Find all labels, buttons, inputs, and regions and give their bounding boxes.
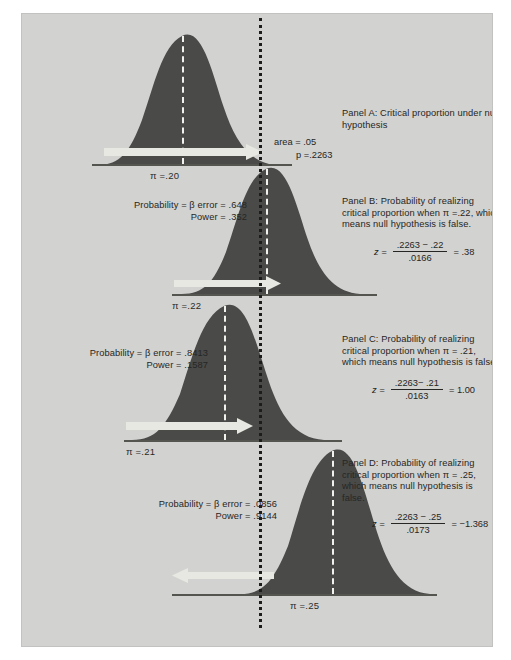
panel-c-z-numerator: .2263− .21 xyxy=(391,378,443,389)
panel-d-pi-label: π =.25 xyxy=(290,600,319,611)
panel-b-z-numerator: .2263 − .22 xyxy=(393,240,448,251)
panel-a-arrow-right xyxy=(104,144,264,164)
panel-c-z-result: = 1.00 xyxy=(446,385,475,395)
panel-d: π =.25 Probability = β error = .0856 Pow… xyxy=(22,446,492,616)
panel-a-area-annotation: area = .05 p =.2263 xyxy=(274,136,332,161)
panel-b-z-formula: z = .2263 − .22 .0166 = .38 xyxy=(374,240,474,263)
panel-c-arrow-right xyxy=(126,418,254,438)
panel-d-z-symbol: z = xyxy=(372,519,388,529)
panel-b-beta-line: Probability = β error = .648 xyxy=(57,199,247,211)
panel-b-power-line: Power = .352 xyxy=(57,211,247,223)
statistical-power-figure: π =.20 area = .05 p =.2263 Panel A: Crit… xyxy=(22,14,492,646)
panel-b-arrow-right xyxy=(174,276,282,295)
panel-a-p-label: p =.2263 xyxy=(274,149,332,162)
panel-d-z-formula: z = .2263 − .25 .0173 = −1.368 xyxy=(372,512,488,535)
panel-d-mean-line xyxy=(332,451,334,594)
panel-c-description: Panel C: Probability of realizing critic… xyxy=(342,334,492,369)
panel-b-z-symbol: z = xyxy=(374,247,390,257)
panel-c-power-line: Power = .1587 xyxy=(22,359,208,371)
panel-d-power-line: Power = .9144 xyxy=(77,510,277,522)
panel-d-beta-annotation: Probability = β error = .0856 Power = .9… xyxy=(77,498,277,522)
panel-b-z-result: = .38 xyxy=(450,247,474,257)
panel-d-description: Panel D: Probability of realizing critic… xyxy=(342,458,492,504)
panel-c-z-denominator: .0163 xyxy=(391,389,443,401)
panel-c-beta-line: Probability = β error = .8413 xyxy=(22,347,208,359)
panel-c: π =.21 Probability = β error = .8413 Pow… xyxy=(22,302,492,462)
panel-c-z-symbol: z = xyxy=(372,385,388,395)
panel-c-baseline xyxy=(124,440,342,442)
panel-c-beta-annotation: Probability = β error = .8413 Power = .1… xyxy=(22,347,208,371)
panel-b: π =.22 Probability = β error = .648 Powe… xyxy=(22,166,492,316)
panel-b-description: Panel B: Probability of realizing critic… xyxy=(342,196,492,231)
panel-d-z-numerator: .2263 − .25 xyxy=(391,512,446,523)
panel-b-beta-annotation: Probability = β error = .648 Power = .35… xyxy=(57,199,247,223)
panel-d-baseline xyxy=(172,594,437,596)
panel-d-z-denominator: .0173 xyxy=(391,523,446,535)
panel-b-z-denominator: .0166 xyxy=(393,251,448,263)
critical-value-line xyxy=(259,18,262,628)
panel-a-area-label: area = .05 xyxy=(274,137,316,147)
panel-d-beta-line: Probability = β error = .0856 xyxy=(77,498,277,510)
panel-c-z-formula: z = .2263− .21 .0163 = 1.00 xyxy=(372,378,475,401)
panel-d-z-result: = −1.368 xyxy=(448,519,488,529)
panel-a-description: Panel A: Critical proportion under null … xyxy=(342,108,492,131)
